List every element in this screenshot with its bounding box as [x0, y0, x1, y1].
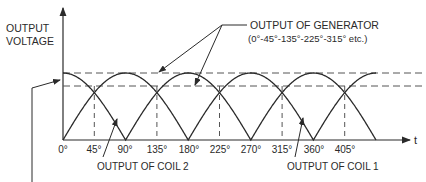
- coil2-leader: [103, 119, 117, 157]
- generator-label-line2: (0°-45°-135°-225°-315° etc.): [248, 33, 367, 44]
- generator-label-line1: OUTPUT OF GENERATOR: [250, 19, 379, 31]
- generator-output-diagram: OUTPUT VOLTAGE t OUTPUT OF GENERATOR (0°…: [0, 0, 426, 182]
- tick-label: 45°: [86, 144, 101, 155]
- tick-label: 90°: [117, 144, 132, 155]
- crossing-markers: [94, 86, 344, 140]
- tick-label: 270°: [241, 144, 262, 155]
- left-leader: [32, 80, 60, 182]
- x-axis-label: t: [414, 134, 417, 146]
- y-axis-label-line2: VOLTAGE: [6, 35, 54, 47]
- tick-label: 360°: [304, 144, 325, 155]
- generator-leader: [159, 25, 247, 85]
- tick-label: 405°: [335, 144, 356, 155]
- tick-label: 315°: [272, 144, 293, 155]
- tick-label: 180°: [179, 144, 200, 155]
- tick-labels: 0° 45° 90° 135° 180° 225° 270° 315° 360°…: [58, 144, 355, 155]
- coil1-label: OUTPUT OF COIL 1: [287, 161, 379, 172]
- tick-label: 0°: [58, 144, 68, 155]
- tick-label: 225°: [210, 144, 231, 155]
- coil1-leader: [295, 118, 303, 157]
- tick-label: 135°: [147, 144, 168, 155]
- y-axis-label-line1: OUTPUT: [6, 22, 50, 34]
- coil2-label: OUTPUT OF COIL 2: [97, 161, 189, 172]
